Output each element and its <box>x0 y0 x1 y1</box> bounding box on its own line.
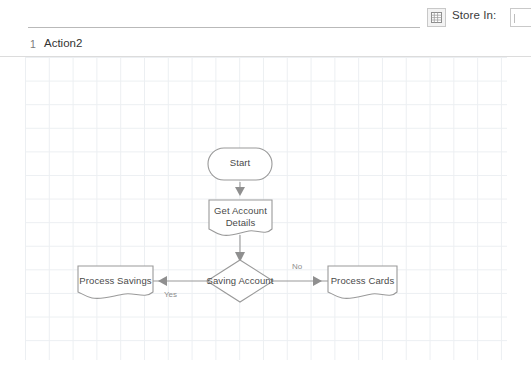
flowchart-canvas[interactable]: Start Get Account Details Saving Account… <box>25 57 507 360</box>
node-get-account-details[interactable] <box>209 200 272 237</box>
edge-label-yes: Yes <box>164 290 177 299</box>
dropdown-caret-icon <box>514 14 522 23</box>
top-toolbar: Store In: <box>0 0 531 32</box>
tab-action2[interactable]: Action2 <box>44 37 82 49</box>
node-start[interactable] <box>208 148 272 180</box>
node-saving-account[interactable] <box>207 260 273 302</box>
arrowhead-decision-to-process-savings <box>158 276 167 286</box>
grid-table-glyph <box>431 12 442 23</box>
edge-label-no: No <box>292 262 302 271</box>
arrowhead-decision-to-process-cards <box>313 276 322 286</box>
text-field-underline[interactable] <box>28 27 420 28</box>
script-tab-row: 1 Action2 <box>0 32 531 57</box>
arrowhead-start-to-get-account <box>235 187 245 196</box>
store-in-dropdown[interactable] <box>510 8 531 27</box>
store-in-label: Store In: <box>452 9 496 21</box>
grid-table-icon[interactable] <box>427 8 446 27</box>
line-number: 1 <box>28 38 38 50</box>
node-process-cards[interactable] <box>328 266 397 300</box>
node-process-savings[interactable] <box>78 266 153 300</box>
